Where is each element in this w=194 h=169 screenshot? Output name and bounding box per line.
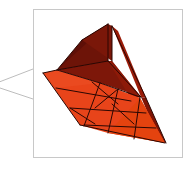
mesh-figure-canvas bbox=[0, 0, 194, 169]
figure-root: Triangulated 3D surface mesh inset bbox=[0, 0, 194, 169]
